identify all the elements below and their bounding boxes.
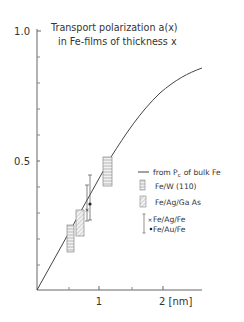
dot-marker-icon [88,202,91,205]
fe-w-box-2 [103,157,112,186]
legend-label-bulk: from Pcof bulk Fe [153,168,221,178]
x-tick-label-1: 1 [96,296,102,307]
legend: from Pcof bulk Fe Fe/W (110) Fe/Ag/Ga As… [138,168,221,234]
bulk-fe-curve [37,68,202,290]
y-axis [37,29,41,290]
y-tick-label-1.0: 1.0 [14,26,30,37]
y-tick-label-0.5: 0.5 [14,156,30,167]
legend-label-fe-ag-gaas: Fe/Ag/Ga As [155,198,201,207]
legend-fe-ag-gaas-icon [140,196,146,207]
legend-errorbar-icon [143,214,146,233]
legend-label-fe-au-fe: Fe/Au/Fe [153,225,186,234]
legend-label-fe-ag-fe: Fe/Ag/Fe [153,215,186,224]
legend-dot-marker-icon [150,228,153,231]
x-marker-icon: × [84,206,89,213]
legend-x-marker-icon: × [147,216,152,223]
chart-subtitle: in Fe-films of thickness x [58,36,177,47]
legend-label-fe-w: Fe/W (110) [155,182,197,191]
x-axis [37,286,202,290]
fe-ag-gaas-box [76,210,84,236]
legend-fe-w-icon [140,180,145,190]
x-tick-label-2: 2 [nm] [159,296,193,307]
chart-title: Transport polarization a(x) [50,22,178,33]
fe-w-box-1 [67,225,74,252]
chart-canvas: 1.0 0.5 1 2 [nm] Transport polarization … [0,0,244,322]
